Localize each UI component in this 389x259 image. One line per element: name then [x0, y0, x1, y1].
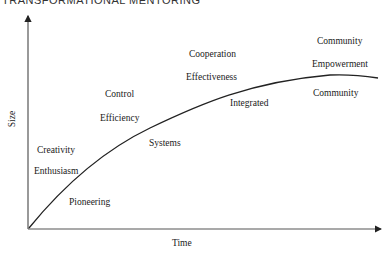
label-community-top: Community	[317, 36, 362, 46]
x-axis-label: Time	[172, 238, 192, 248]
y-axis-label: Size	[7, 111, 17, 127]
label-enthusiasm: Enthusiasm	[34, 166, 78, 176]
label-creativity: Creativity	[37, 145, 75, 155]
stage-pioneering: Pioneering	[69, 197, 110, 207]
label-empowerment: Empowerment	[312, 59, 368, 69]
label-efficiency: Efficiency	[100, 113, 139, 123]
stage-community: Community	[313, 88, 358, 98]
label-control: Control	[105, 89, 134, 99]
stage-integrated: Integrated	[230, 98, 269, 108]
label-cooperation: Cooperation	[189, 49, 236, 59]
stage-systems: Systems	[149, 138, 181, 148]
label-effectiveness: Effectiveness	[186, 72, 237, 82]
